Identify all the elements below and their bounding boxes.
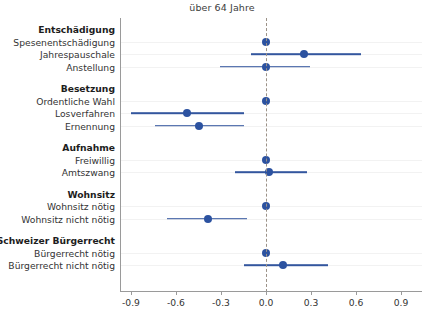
zero-reference-line: [266, 18, 267, 292]
x-tick-mark: [401, 291, 402, 295]
x-tick-mark: [356, 291, 357, 295]
row-label: Freiwillig: [75, 154, 115, 165]
row-label: Anstellung: [66, 61, 115, 72]
x-tick-mark: [131, 291, 132, 295]
x-tick-mark: [266, 291, 267, 295]
row-gridline: [121, 253, 422, 254]
x-tick-label: 0.6: [349, 297, 364, 308]
group-label: Aufnahme: [62, 142, 115, 153]
row-label: Amtszwang: [62, 167, 115, 178]
estimate-point: [195, 122, 203, 130]
row-label: Ordentliche Wahl: [36, 95, 115, 106]
estimate-point: [204, 215, 212, 223]
row-label: Ernennung: [65, 120, 115, 131]
x-tick-mark: [176, 291, 177, 295]
x-tick-label: 0.9: [394, 297, 409, 308]
coefficient-plot: über 64 Jahre EntschädigungSpesenentschä…: [0, 0, 422, 315]
row-label: Bürgerrecht nötig: [34, 247, 115, 258]
row-gridline: [121, 206, 422, 207]
group-label: Schweizer Bürgerrecht: [0, 235, 115, 246]
group-label: Besetzung: [61, 83, 115, 94]
group-label: Wohnsitz: [67, 188, 115, 199]
row-label: Bürgerrecht nicht nötig: [8, 260, 115, 271]
row-label: Wohnsitz nötig: [47, 201, 115, 212]
x-axis-line: [120, 291, 422, 292]
x-tick-label: -0.9: [122, 297, 140, 308]
row-gridline: [121, 42, 422, 43]
x-tick-label: 0.3: [304, 297, 319, 308]
x-tick-mark: [311, 291, 312, 295]
row-label: Wohnsitz nicht nötig: [21, 213, 115, 224]
y-axis-line: [120, 18, 121, 292]
estimate-point: [300, 50, 308, 58]
x-tick-mark: [221, 291, 222, 295]
row-label: Spesenentschädigung: [13, 36, 115, 47]
row-label: Losverfahren: [55, 108, 115, 119]
row-label: Jahrespauschale: [40, 49, 115, 60]
x-tick-label: -0.3: [212, 297, 230, 308]
estimate-point: [183, 109, 191, 117]
group-label: Entschädigung: [38, 24, 115, 35]
row-gridline: [121, 101, 422, 102]
estimate-point: [279, 261, 287, 269]
x-tick-label: -0.6: [167, 297, 185, 308]
x-tick-label: 0.0: [259, 297, 274, 308]
plot-area: EntschädigungSpesenentschädigungJahrespa…: [0, 0, 422, 315]
row-gridline: [121, 160, 422, 161]
